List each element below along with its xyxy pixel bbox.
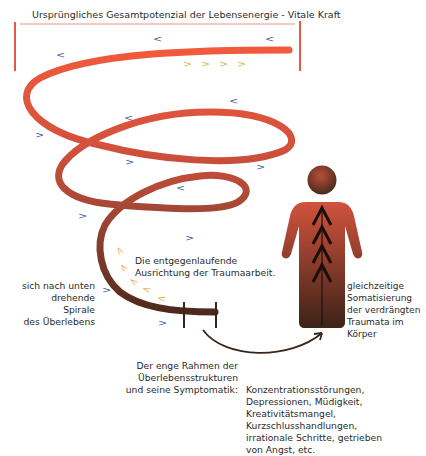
direction-arrow-left: <	[124, 114, 133, 123]
direction-arrow-right: >	[35, 131, 44, 140]
counter-arrow-right: >	[219, 60, 228, 69]
counter-arrow-up: <	[156, 293, 167, 303]
direction-arrow-right: >	[78, 212, 87, 221]
counter-arrow-right: >	[183, 60, 192, 69]
direction-arrow-left: <	[265, 35, 274, 44]
somatization-label: gleichzeitige Somatisierung der verdräng…	[347, 280, 420, 340]
diagram-title: Ursprüngliches Gesamtpotenzial der Leben…	[32, 9, 341, 20]
narrow-frame-label: Der enge Rahmen der Überlebensstrukturen…	[120, 360, 238, 396]
vital-force-frame	[15, 21, 300, 71]
counter-arrow-right: >	[201, 60, 210, 69]
symptoms-list: Konzentrationsstörungen, Depressionen, M…	[246, 384, 382, 456]
counter-direction-label: Die entgegenlaufende Ausrichtung der Tra…	[135, 255, 275, 279]
direction-arrow-right: >	[125, 158, 134, 167]
spiral-down-label: sich nach unten drehende Spirale des Übe…	[18, 280, 95, 328]
direction-arrow-right: >	[185, 234, 194, 243]
direction-arrow-left: <	[229, 97, 238, 106]
direction-arrow-right: >	[102, 286, 111, 295]
direction-arrow-left: <	[153, 35, 162, 44]
direction-arrow-left: <	[176, 184, 185, 193]
curved-arrow-icon	[203, 330, 322, 353]
direction-arrow-left: <	[56, 51, 65, 60]
direction-arrow-right: >	[158, 319, 167, 328]
counter-arrow-right: >	[237, 60, 246, 69]
direction-arrow-right: >	[256, 163, 265, 172]
